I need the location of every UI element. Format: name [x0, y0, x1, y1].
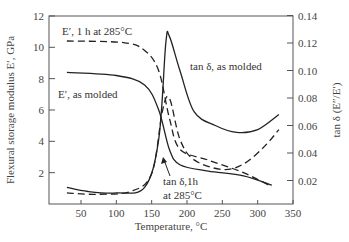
y-axis-left: 24681012	[33, 10, 55, 179]
y-right-tick-label: 0.12	[298, 37, 317, 49]
x-tick-label: 350	[285, 207, 302, 219]
x-tick-label: 150	[143, 207, 160, 219]
x-tick-label: 250	[214, 207, 231, 219]
x-tick-label: 50	[76, 207, 88, 219]
x-tick-label: 300	[249, 207, 266, 219]
y-left-tick-label: 6	[39, 104, 45, 116]
y-right-tick-label: 0.04	[298, 147, 318, 159]
y-left-tick-label: 12	[33, 10, 44, 22]
annotation-e-1h: E′, 1 h at 285°C	[62, 25, 132, 37]
y-left-tick-label: 10	[33, 41, 45, 53]
chart: 50100150200250300350 24681012 0.020.040.…	[0, 0, 349, 242]
y-axis-left-title: Flexural storage modulus E′, GPa	[4, 36, 16, 184]
y-left-tick-label: 8	[39, 73, 45, 85]
y-axis-right: 0.020.040.060.080.100.120.14	[287, 10, 318, 187]
annotation-tan-molded: tan δ, as molded	[190, 60, 262, 72]
x-axis-title: Temperature, °C	[135, 220, 208, 232]
series-lines	[67, 31, 279, 194]
annotation-arrow	[161, 157, 170, 176]
x-tick-label: 100	[108, 207, 125, 219]
y-left-tick-label: 2	[39, 167, 45, 179]
y-right-tick-label: 0.08	[298, 92, 318, 104]
y-axis-right-title: tan δ (E″/E′)	[330, 82, 343, 137]
y-right-tick-label: 0.02	[298, 175, 317, 187]
annotation-tan-1h-line2: at 285°C	[163, 189, 202, 201]
y-right-tick-label: 0.06	[298, 120, 318, 132]
annotation-tan-1h: tan δ,1h	[163, 175, 199, 187]
annotation-e-molded: E′, as molded	[58, 88, 118, 100]
x-tick-label: 200	[179, 207, 196, 219]
x-axis: 50100150200250300350	[76, 200, 302, 219]
y-right-tick-label: 0.14	[298, 10, 318, 22]
y-left-tick-label: 4	[39, 135, 45, 147]
y-right-tick-label: 0.10	[298, 65, 318, 77]
